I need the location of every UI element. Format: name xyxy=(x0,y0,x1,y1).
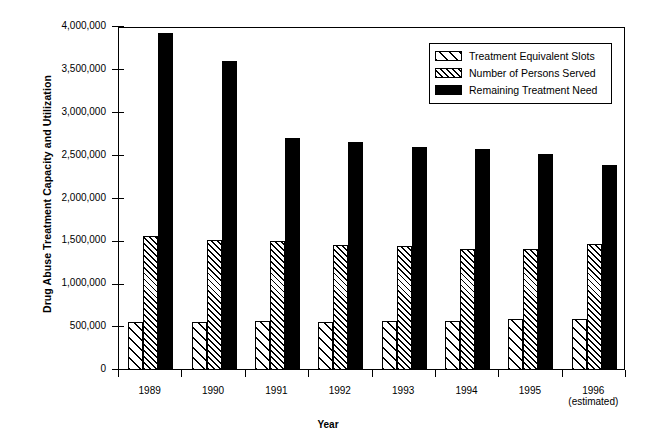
bar xyxy=(523,249,538,370)
bar xyxy=(445,321,460,370)
bar xyxy=(460,249,475,370)
x-axis-tick xyxy=(245,370,246,377)
y-axis-tick xyxy=(112,198,124,199)
x-axis-tick-sublabel: (estimated) xyxy=(553,396,633,407)
y-axis-tick-label: 1,500,000 xyxy=(14,234,106,245)
x-axis-title: Year xyxy=(0,419,656,430)
y-axis-tick xyxy=(112,69,124,70)
y-axis-tick-label: 2,500,000 xyxy=(14,149,106,160)
bar xyxy=(270,241,285,370)
bar xyxy=(412,147,427,370)
bar xyxy=(382,321,397,370)
bar xyxy=(333,245,348,370)
y-axis-tick-label: 2,000,000 xyxy=(14,192,106,203)
bar xyxy=(192,322,207,370)
x-axis-tick-label: 1996(estimated) xyxy=(553,385,633,407)
x-axis-tick xyxy=(435,370,436,377)
bar-chart: Drug Abuse Treatment Capacity and Utiliz… xyxy=(0,0,656,444)
x-axis-tick xyxy=(181,370,182,377)
x-axis-tick xyxy=(372,370,373,377)
bar xyxy=(508,319,523,370)
y-axis-tick xyxy=(112,326,124,327)
bar xyxy=(143,236,158,370)
x-axis-tick xyxy=(498,370,499,377)
y-axis-tick xyxy=(112,284,124,285)
y-axis-tick-label: 0 xyxy=(14,363,106,374)
bar xyxy=(587,244,602,370)
bar xyxy=(222,61,237,370)
y-axis-tick-label: 500,000 xyxy=(14,320,106,331)
bar xyxy=(318,322,333,370)
legend-swatch-icon xyxy=(435,85,462,95)
y-axis-tick xyxy=(112,155,124,156)
x-axis-tick xyxy=(308,370,309,377)
bar xyxy=(475,149,490,370)
y-axis-tick xyxy=(112,241,124,242)
bar xyxy=(572,319,587,370)
bar xyxy=(128,322,143,370)
y-axis-tick-label: 3,000,000 xyxy=(14,106,106,117)
bar xyxy=(348,142,363,370)
bar xyxy=(538,154,553,370)
legend-item-label: Treatment Equivalent Slots xyxy=(469,50,595,62)
y-axis-tick xyxy=(112,112,124,113)
x-axis-tick xyxy=(562,370,563,377)
legend-item-label: Remaining Treatment Need xyxy=(469,84,597,96)
y-axis-tick-label: 1,000,000 xyxy=(14,277,106,288)
x-axis-tick xyxy=(118,370,119,377)
legend-item-label: Number of Persons Served xyxy=(469,67,596,79)
bar xyxy=(397,246,412,370)
bar xyxy=(602,165,617,370)
legend-item-treatment-equivalent-slots: Treatment Equivalent Slots xyxy=(435,48,606,64)
bar xyxy=(285,138,300,370)
legend-item-number-of-persons-served: Number of Persons Served xyxy=(435,65,606,81)
legend-item-remaining-treatment-need: Remaining Treatment Need xyxy=(435,82,606,98)
bar xyxy=(207,240,222,370)
bar xyxy=(158,33,173,370)
y-axis-tick-label: 3,500,000 xyxy=(14,63,106,74)
legend-swatch-icon xyxy=(435,68,462,78)
chart-legend: Treatment Equivalent Slots Number of Per… xyxy=(429,43,612,104)
y-axis-tick xyxy=(112,26,124,27)
x-axis-tick xyxy=(625,370,626,377)
y-axis-tick-label: 4,000,000 xyxy=(14,20,106,31)
legend-swatch-icon xyxy=(435,51,462,61)
bar xyxy=(255,321,270,370)
